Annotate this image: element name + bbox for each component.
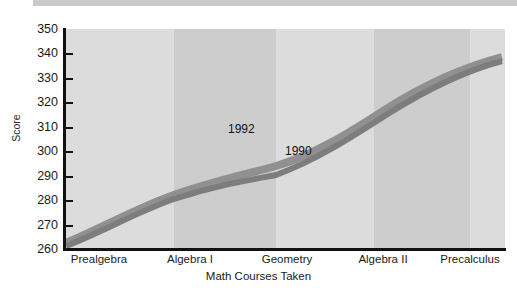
series-lines [64,29,505,250]
y-tick-mark [64,151,73,153]
y-tick-label: 280 [22,194,58,207]
series-annotation-1990: 1990 [285,144,312,158]
y-tick-label: 270 [22,219,58,232]
y-tick-label: 300 [22,145,58,158]
x-tick-label-precalculus: Precalculus [420,253,517,265]
y-tick-mark [64,78,73,80]
y-axis-labels: 350 340 330 320 310 300 290 280 270 260 [18,0,58,295]
x-axis-line [63,248,506,251]
y-tick-mark [64,102,73,104]
x-tick-label-prealgebra: Prealgebra [49,253,149,265]
x-tick-label-geometry: Geometry [237,253,337,265]
y-tick-mark [64,176,73,178]
line-chart: 350 340 330 320 310 300 290 280 270 260 … [0,0,517,295]
series-annotation-1992: 1992 [228,122,255,136]
y-tick-mark [64,225,73,227]
y-tick-label: 340 [22,47,58,60]
x-axis-title: Math Courses Taken [0,270,517,282]
series-line-1990 [66,61,502,246]
x-tick-label-algebra-i: Algebra I [140,253,240,265]
y-axis-title: Score [10,98,22,158]
y-tick-mark [64,53,73,55]
y-tick-mark [64,200,73,202]
y-axis-line [63,28,66,251]
plot-area [64,29,505,250]
y-tick-label: 310 [22,121,58,134]
y-tick-label: 330 [22,72,58,85]
y-tick-mark [64,127,73,129]
y-tick-label: 350 [22,23,58,36]
y-tick-label: 320 [22,96,58,109]
y-tick-label: 290 [22,170,58,183]
x-tick-label-algebra-ii: Algebra II [333,253,433,265]
